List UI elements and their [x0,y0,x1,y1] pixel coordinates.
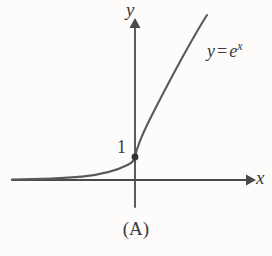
curve-label-exponent: x [237,39,242,53]
exponential-curve [12,15,207,180]
x-axis-arrowhead [246,175,256,186]
curve-equation-label: y=ex [207,40,242,60]
curve-label-equals: = [215,41,229,61]
y-intercept-tick-label: 1 [117,138,126,156]
figure-exponential-graph: y x 1 y=ex (A) [0,0,272,256]
y-axis-label: y [126,0,134,19]
curve-label-lhs: y [207,41,215,61]
y-intercept-marker [132,154,139,161]
curve-label-base: e [229,41,237,61]
figure-caption: (A) [0,218,272,240]
x-axis-label: x [256,168,264,187]
